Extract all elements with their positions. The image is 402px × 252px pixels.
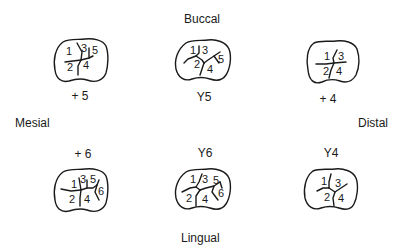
tooth-y5-diagram: 1 2 3 4 5 xyxy=(174,39,232,85)
tooth-y5-caption: Y5 xyxy=(184,90,224,104)
tooth-plus4-diagram: 1 2 3 4 xyxy=(306,40,360,86)
cusp-label: 2 xyxy=(324,191,330,203)
cusp-label: 5 xyxy=(90,173,96,185)
tooth-y6-caption: Y6 xyxy=(185,146,225,160)
cusp-label: 6 xyxy=(98,185,104,197)
cusp-label: 5 xyxy=(92,44,98,56)
tooth-plus6-caption: + 6 xyxy=(63,147,103,161)
cusp-label: 4 xyxy=(202,193,208,205)
tooth-outline xyxy=(307,41,359,83)
cusp-label: 3 xyxy=(338,50,344,62)
cusp-label: 4 xyxy=(84,193,90,205)
distal-label: Distal xyxy=(358,116,388,130)
cusp-label: 3 xyxy=(81,42,87,54)
cusp-label: 2 xyxy=(186,192,192,204)
cusp-label: 3 xyxy=(335,177,341,189)
cusp-label: 1 xyxy=(324,50,330,62)
cusp-label: 4 xyxy=(338,192,344,204)
cusp-label: 1 xyxy=(190,173,196,185)
cusp-label: 3 xyxy=(202,173,208,185)
cusp-label: 5 xyxy=(218,53,224,65)
cusp-label: 2 xyxy=(69,193,75,205)
lingual-label: Lingual xyxy=(181,231,220,245)
tooth-plus5-caption: + 5 xyxy=(60,89,100,103)
cusp-label: 4 xyxy=(83,59,89,71)
cusp-label: 6 xyxy=(218,187,224,199)
cusp-label: 1 xyxy=(190,44,196,56)
tooth-plus6-diagram: 1 2 3 4 5 6 xyxy=(53,168,109,214)
cusp-label: 3 xyxy=(80,173,86,185)
mesial-label: Mesial xyxy=(15,116,50,130)
cusp-label: 2 xyxy=(323,65,329,77)
cusp-label: 2 xyxy=(194,58,200,70)
cusp-label: 2 xyxy=(67,61,73,73)
cusp-label: 1 xyxy=(321,175,327,187)
cusp-label: 4 xyxy=(336,65,342,77)
tooth-plus5-diagram: 1 2 3 4 5 xyxy=(53,38,109,84)
tooth-y4-diagram: 1 2 3 4 xyxy=(303,168,359,214)
tooth-plus4-caption: + 4 xyxy=(308,92,348,106)
tooth-y4-caption: Y4 xyxy=(311,146,351,160)
cusp-label: 4 xyxy=(207,63,213,75)
cusp-label: 1 xyxy=(66,45,72,57)
buccal-label: Buccal xyxy=(184,12,220,26)
cusp-label: 5 xyxy=(213,174,219,186)
tooth-y6-diagram: 1 2 3 4 5 6 xyxy=(174,168,232,214)
cusp-label: 3 xyxy=(202,44,208,56)
cusp-label: 1 xyxy=(71,178,77,190)
